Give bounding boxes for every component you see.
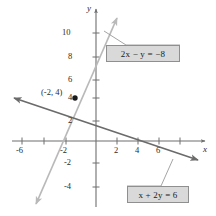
equation-text-upper: 2x − y = −8 [121, 49, 165, 59]
leader-line-lower [127, 159, 173, 186]
x-tick-label-neg6: -6 [16, 146, 23, 155]
x-tick-label-2: 2 [114, 146, 118, 155]
graph-canvas [0, 0, 216, 216]
y-tick-label-6: 6 [68, 75, 72, 84]
axis-y [93, 9, 100, 207]
equation-box-upper: 2x − y = −8 [106, 45, 180, 62]
y-tick-label-2: 2 [68, 116, 72, 125]
equation-box-lower: x + 2y = 6 [127, 186, 189, 203]
graph-line-2x-minus-y [36, 18, 117, 204]
graph-line-x-plus-2y [14, 98, 198, 160]
y-tick-label-neg2: -2 [64, 158, 71, 167]
intersection-point-label: (-2, 4) [41, 88, 62, 97]
y-tick-label-4: 4 [68, 93, 72, 102]
y-tick-label-10: 10 [62, 28, 71, 37]
x-tick-label-6: 6 [156, 146, 160, 155]
y-tick-label-neg4: -4 [64, 182, 71, 191]
equation-text-lower: x + 2y = 6 [138, 190, 177, 200]
leader-line-upper [104, 31, 180, 45]
y-axis-label: y [87, 4, 91, 13]
y-tick-label-8: 8 [68, 52, 72, 61]
coordinate-graph-figure: 10 8 6 4 2 -2 -4 -6 -2 2 4 6 y x (-2, 4)… [0, 0, 216, 216]
x-axis-label: x [203, 145, 207, 154]
axis-x [12, 138, 205, 145]
intersection-point-marker [72, 95, 77, 100]
x-tick-label-4: 4 [135, 146, 139, 155]
x-tick-label-neg2: -2 [60, 146, 67, 155]
